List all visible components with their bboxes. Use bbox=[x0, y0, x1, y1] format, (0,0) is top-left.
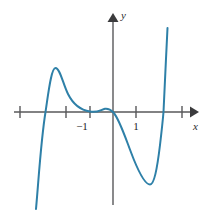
x-axis-arrow-icon bbox=[190, 107, 199, 118]
polynomial-curve bbox=[36, 28, 168, 209]
y-axis-arrow-icon bbox=[108, 13, 119, 22]
y-axis-label: y bbox=[120, 9, 126, 21]
x-tick-label-one: 1 bbox=[133, 120, 139, 132]
x-axis-label: x bbox=[192, 120, 198, 132]
x-tick-label-minus-one: −1 bbox=[76, 120, 88, 132]
graph-figure: y x −1 1 bbox=[0, 0, 210, 214]
coordinate-plane-svg: y x −1 1 bbox=[0, 0, 210, 214]
